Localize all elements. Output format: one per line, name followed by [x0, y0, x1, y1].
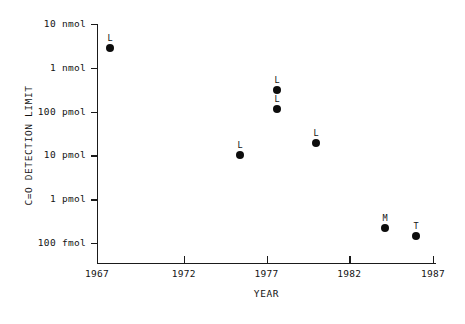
x-tick-label: 1972 [154, 268, 214, 279]
x-tick-mark [433, 256, 434, 263]
scatter-chart: 10 nmol1 nmol100 pmol10 pmol1 pmol100 fm… [0, 0, 465, 324]
y-tick-label: 10 pmol [0, 149, 86, 160]
y-tick-mark [91, 68, 98, 69]
y-tick-label: 10 nmol [0, 18, 86, 29]
data-point [312, 139, 320, 147]
data-point [381, 224, 389, 232]
x-tick-label: 1967 [67, 268, 127, 279]
y-tick-label: 1 nmol [0, 62, 86, 73]
y-tick-mark [91, 24, 98, 25]
y-axis-title: C=O DETECTION LIMIT [23, 46, 34, 246]
data-point [106, 44, 114, 52]
x-tick-label: 1987 [403, 268, 463, 279]
x-axis-title: YEAR [97, 288, 436, 299]
y-axis-line [97, 24, 98, 264]
data-point [412, 232, 420, 240]
data-point-label: L [274, 76, 279, 85]
y-tick-label: 1 pmol [0, 193, 86, 204]
data-point-label: L [107, 34, 112, 43]
x-tick-mark [184, 256, 185, 263]
data-point [236, 151, 244, 159]
x-tick-label: 1982 [319, 268, 379, 279]
data-point-label: M [382, 214, 387, 223]
x-tick-mark [349, 256, 350, 263]
y-tick-mark [91, 243, 98, 244]
x-tick-label: 1977 [237, 268, 297, 279]
y-tick-mark [91, 112, 98, 113]
data-point [273, 105, 281, 113]
data-point-label: L [237, 141, 242, 150]
x-tick-mark [267, 256, 268, 263]
data-point-label: T [413, 222, 418, 231]
x-tick-mark [97, 256, 98, 263]
y-tick-mark [91, 199, 98, 200]
y-tick-label: 100 fmol [0, 237, 86, 248]
data-point-label: L [313, 129, 318, 138]
y-tick-label: 100 pmol [0, 106, 86, 117]
y-tick-mark [91, 155, 98, 156]
data-point-label: L [274, 95, 279, 104]
